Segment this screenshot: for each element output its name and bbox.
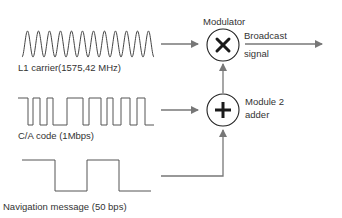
navigation-message-waveform <box>22 160 151 191</box>
gps-signal-diagram <box>0 0 342 218</box>
modulator-node <box>207 29 239 61</box>
ca-code-waveform <box>18 98 154 125</box>
ca-code-label: C/A code (1Mbps) <box>18 131 94 141</box>
navigation-message-label: Navigation message (50 bps) <box>3 202 127 212</box>
l1-carrier-label: L1 carrier(1575,42 MHz) <box>18 63 121 73</box>
broadcast-label-line2: signal <box>244 49 269 59</box>
nav-to-adder-arrow <box>161 130 223 176</box>
adder-label-line1: Module 2 <box>245 97 284 107</box>
modulator-label: Modulator <box>203 17 245 27</box>
l1-carrier-waveform <box>22 31 154 57</box>
adder-node <box>207 94 239 126</box>
adder-label-line2: adder <box>245 110 269 120</box>
broadcast-label-line1: Broadcast <box>244 31 287 41</box>
